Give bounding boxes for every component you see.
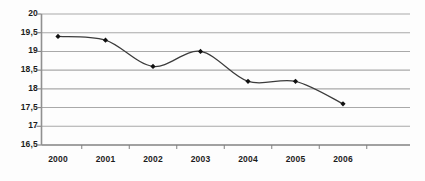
- x-axis-tick-label: 2004: [225, 154, 271, 164]
- data-point-marker: [198, 49, 203, 54]
- x-axis-tick-label: 2002: [130, 154, 176, 164]
- x-axis-tick-label: 2005: [273, 154, 319, 164]
- data-point-marker: [245, 79, 250, 84]
- gridlines: [37, 14, 411, 145]
- data-point-marker: [103, 38, 108, 43]
- x-axis-tick-label: 2006: [320, 154, 366, 164]
- axis-lines: [42, 14, 411, 145]
- x-axis-tick-label: 2001: [83, 154, 129, 164]
- x-axis-tick-label: 2003: [178, 154, 224, 164]
- data-point-marker: [340, 101, 345, 106]
- x-axis-tick-label: 2000: [35, 154, 81, 164]
- data-point-marker: [55, 34, 60, 39]
- data-point-marker: [150, 64, 155, 69]
- data-point-marker: [293, 79, 298, 84]
- line-chart: 2019,51918,51817,51716,5 200020012002200…: [0, 0, 425, 181]
